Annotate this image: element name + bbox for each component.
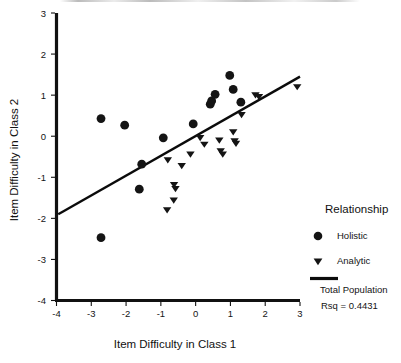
x-tick-label: 1 (228, 308, 233, 319)
data-point-circle (225, 71, 234, 80)
y-axis-title: Item Difficulty in Class 2 (8, 99, 20, 222)
y-tick-label: -2 (38, 213, 46, 224)
data-point-triangle (170, 197, 178, 203)
data-point-circle (97, 114, 106, 123)
x-tick-label: -4 (52, 308, 60, 319)
data-point-circle (211, 90, 220, 99)
x-axis-ticks: -4-3-2-10123 (52, 302, 302, 319)
y-tick-label: 1 (41, 90, 46, 101)
regression-line (58, 77, 300, 215)
legend-title: Relationship (325, 203, 388, 215)
legend-marker-triangle-down-icon (314, 259, 323, 266)
y-tick-label: -1 (38, 172, 46, 183)
x-tick-label: -1 (157, 308, 165, 319)
y-tick-label: -4 (38, 295, 46, 306)
data-point-circle (137, 160, 146, 169)
x-tick-label: -2 (122, 308, 130, 319)
data-point-circle (229, 85, 238, 94)
data-point-circle (120, 121, 129, 130)
y-tick-label: 2 (41, 49, 46, 60)
legend: Relationship Holistic Analytic Total Pop… (310, 203, 388, 311)
y-tick-label: 3 (41, 8, 46, 19)
x-tick-label: 0 (193, 308, 198, 319)
data-point-circle (135, 185, 144, 194)
data-point-circle (189, 119, 198, 128)
legend-label-holistic: Holistic (337, 230, 368, 241)
series-analytic-points (163, 84, 301, 213)
legend-rsq-caption: Rsq = 0.4431 (321, 300, 378, 311)
crop-edge-artifact (60, 0, 360, 2)
data-point-triangle (293, 84, 301, 90)
data-point-triangle (232, 141, 240, 147)
data-point-triangle (219, 151, 227, 157)
y-tick-label: 0 (41, 131, 46, 142)
data-point-circle (97, 233, 106, 242)
x-tick-label: 3 (297, 308, 302, 319)
legend-label-analytic: Analytic (337, 255, 371, 266)
data-point-triangle (200, 142, 208, 148)
legend-marker-circle-icon (314, 232, 323, 241)
data-point-triangle (237, 112, 245, 118)
data-point-triangle (171, 186, 179, 192)
data-point-triangle (186, 151, 194, 157)
legend-line-caption: Total Population (320, 284, 388, 295)
data-point-circle (236, 98, 245, 107)
data-point-triangle (229, 129, 237, 135)
scatter-plot-figure: -4-3-2-10123 3210-1-2-3-4 Item Difficult… (0, 0, 401, 363)
y-axis-ticks: 3210-1-2-3-4 (38, 8, 55, 307)
data-point-triangle (163, 207, 171, 213)
x-tick-label: -3 (87, 308, 95, 319)
data-point-triangle (215, 138, 223, 144)
data-point-triangle (196, 135, 204, 141)
data-point-triangle (178, 163, 186, 169)
y-tick-label: -3 (38, 254, 46, 265)
data-point-circle (159, 133, 168, 142)
data-point-triangle (164, 157, 172, 163)
plot-canvas: -4-3-2-10123 3210-1-2-3-4 Item Difficult… (0, 0, 401, 363)
x-axis-title: Item Difficulty in Class 1 (114, 338, 237, 350)
x-tick-label: 2 (263, 308, 268, 319)
